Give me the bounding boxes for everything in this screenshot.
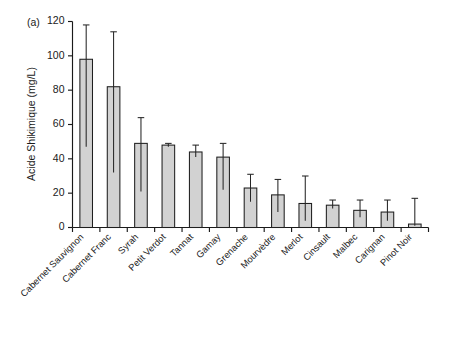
y-tick-label: 80 [53, 83, 65, 95]
y-tick-label: 0 [59, 220, 65, 232]
bar [162, 145, 175, 227]
y-axis-title: Acide Shikimique (mg/L) [25, 67, 37, 181]
bar [189, 152, 202, 228]
y-tick-label: 40 [53, 152, 65, 164]
bar-chart-svg: (a) Acide Shikimique (mg/L) 020406080100… [0, 0, 470, 337]
chart-figure: (a) Acide Shikimique (mg/L) 020406080100… [0, 0, 470, 337]
y-tick-label: 120 [47, 14, 65, 26]
y-axis-ticks: 020406080100120 [47, 14, 73, 232]
x-tick-label: Cabernet Franc [60, 232, 113, 285]
x-axis-ticks [73, 228, 429, 233]
y-tick-label: 60 [53, 117, 65, 129]
y-tick-label: 20 [53, 186, 65, 198]
x-tick-label: Tannat [168, 232, 195, 259]
y-tick-label: 100 [47, 49, 65, 61]
bar-series [80, 59, 421, 227]
x-tick-label: Syrah [116, 232, 140, 256]
x-tick-label: Merlot [279, 232, 305, 258]
x-tick-label: Cinsault [301, 232, 332, 263]
error-bar-series [83, 25, 418, 226]
x-axis-labels: Cabernet SauvignonCabernet FrancSyrahPet… [19, 232, 415, 299]
panel-label: (a) [27, 16, 40, 28]
